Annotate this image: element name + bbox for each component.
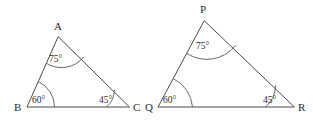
- angle-label-q: 60°: [163, 95, 177, 105]
- geometry-svg: 75° 60° 45° A B C 75° 60° 45° P Q R: [0, 0, 313, 121]
- geometry-figure: 75° 60° 45° A B C 75° 60° 45° P Q R: [0, 0, 313, 121]
- angle-label-a: 75°: [49, 54, 63, 64]
- triangle-abc: 75° 60° 45° A B C: [14, 20, 140, 113]
- vertex-label-c: C: [133, 101, 140, 113]
- vertex-label-a: A: [54, 20, 62, 32]
- angle-label-c: 45°: [99, 95, 113, 105]
- triangle-pqr: 75° 60° 45° P Q R: [145, 3, 306, 113]
- vertex-label-r: R: [298, 101, 306, 113]
- angle-label-p: 75°: [196, 41, 210, 51]
- vertex-label-q: Q: [145, 101, 153, 113]
- angle-label-b: 60°: [32, 95, 46, 105]
- angle-label-r: 45°: [263, 95, 277, 105]
- vertex-label-b: B: [14, 101, 21, 113]
- vertex-label-p: P: [200, 3, 206, 15]
- angle-arc-p: [187, 45, 236, 59]
